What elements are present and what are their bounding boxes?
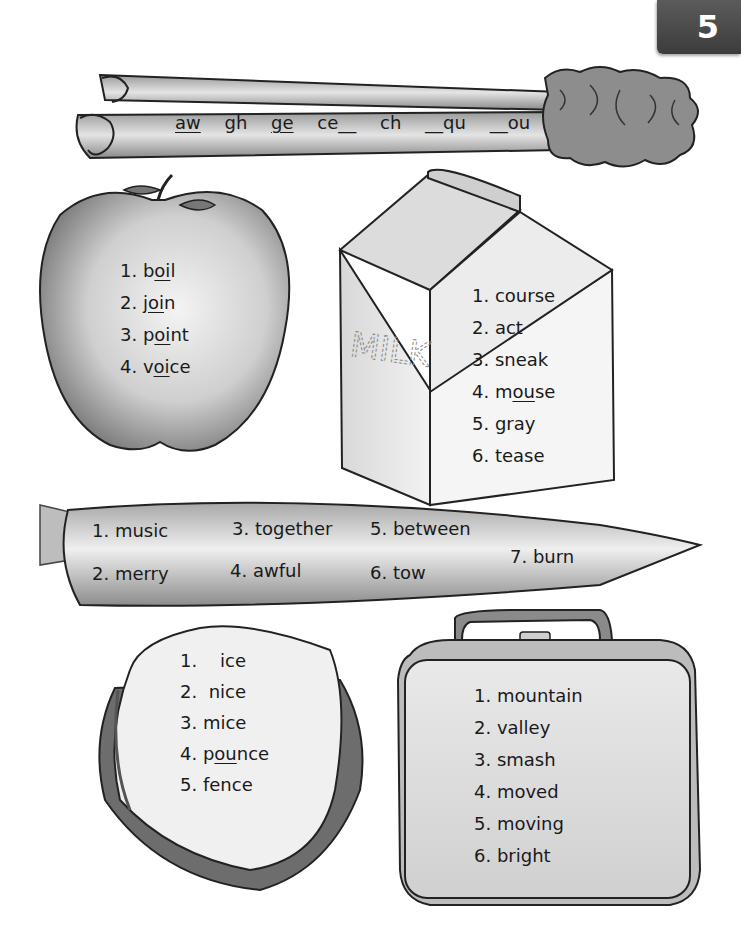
pattern-ou: __ou (490, 112, 530, 133)
list-item: 4. mouse (472, 376, 555, 408)
list-item: 3. point (120, 319, 191, 351)
milk-word-list: 1. course 2. act 3. sneak 4. mouse 5. gr… (472, 280, 555, 472)
page-number: 5 (697, 8, 719, 46)
pattern-aw: aw (175, 112, 201, 133)
list-item: 5. fence (180, 769, 269, 800)
pattern-gh: gh (225, 112, 248, 133)
pattern-ch: ch (380, 112, 401, 133)
list-item: 4. pounce (180, 738, 269, 769)
list-item: 2. act (472, 312, 555, 344)
list-item: 2. nice (180, 676, 269, 707)
list-item: 2. valley (474, 712, 583, 744)
carrot-item-5: 5. between (370, 518, 471, 539)
pattern-ge: ge (271, 112, 294, 133)
food-illustrations: MILK (0, 0, 741, 935)
list-item: 4. voice (120, 351, 191, 383)
list-item: 2. join (120, 287, 191, 319)
carrot-item-6: 6. tow (370, 562, 426, 583)
celery-letter-patterns: aw gh ge ce__ ch __qu __ou (175, 112, 548, 133)
list-item: 4. moved (474, 776, 583, 808)
list-item: 5. moving (474, 808, 583, 840)
page-number-tab: 5 (657, 0, 741, 54)
carrot-item-1: 1. music (92, 520, 168, 541)
list-item: 1. course (472, 280, 555, 312)
carrot-item-7: 7. burn (510, 546, 574, 567)
list-item: 1. ice (180, 645, 269, 676)
carrot-item-4: 4. awful (230, 560, 301, 581)
list-item: 3. mice (180, 707, 269, 738)
list-item: 6. bright (474, 840, 583, 872)
pattern-qu: __qu (425, 112, 466, 133)
pattern-ce: ce__ (317, 112, 356, 133)
list-item: 6. tease (472, 440, 555, 472)
carrot-item-3: 3. together (232, 518, 332, 539)
list-item: 3. smash (474, 744, 583, 776)
list-item: 1. boil (120, 255, 191, 287)
sandwich-word-list: 1. ice 2. nice 3. mice 4. pounce 5. fenc… (180, 645, 269, 800)
apple-word-list: 1. boil 2. join 3. point 4. voice (120, 255, 191, 383)
list-item: 1. mountain (474, 680, 583, 712)
list-item: 5. gray (472, 408, 555, 440)
carrot-item-2: 2. merry (92, 563, 169, 584)
lunchbox-word-list: 1. mountain 2. valley 3. smash 4. moved … (474, 680, 583, 872)
list-item: 3. sneak (472, 344, 555, 376)
